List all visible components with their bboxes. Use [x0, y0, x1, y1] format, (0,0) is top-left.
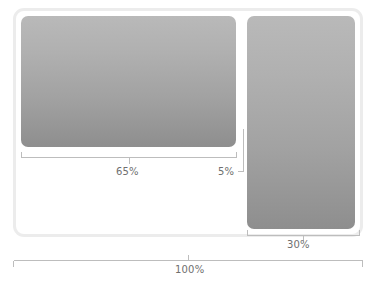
measure-label-5: 5%	[218, 167, 234, 177]
proportion-diagram: 65% 5% 30% 100%	[0, 0, 376, 283]
measure-label-65: 65%	[116, 167, 139, 177]
measure-label-30: 30%	[287, 240, 310, 250]
measurement-lines	[0, 0, 376, 283]
measure-label-100: 100%	[175, 265, 204, 275]
bracket-65	[22, 152, 237, 164]
bracket-5	[238, 129, 244, 172]
